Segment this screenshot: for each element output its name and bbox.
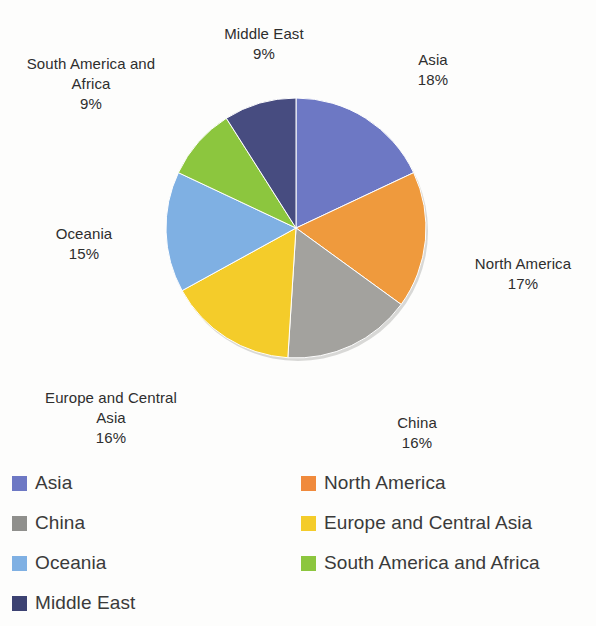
slice-callout-middle-east: Middle East 9% <box>188 4 340 84</box>
legend-swatch-icon-north-america <box>301 476 316 491</box>
legend-swatch-icon-oceania <box>12 556 27 571</box>
slice-callout-south-america-africa-name: South America and Africa <box>27 55 155 92</box>
slice-callout-north-america: North America 17% <box>452 234 594 314</box>
slice-callout-europe-central-asia-name: Europe and Central Asia <box>45 389 177 426</box>
legend-swatch-icon-europe-central-asia <box>301 516 316 531</box>
slice-callout-north-america-name: North America <box>475 255 571 272</box>
slice-callout-south-america-africa: South America and Africa 9% <box>2 34 180 134</box>
slice-callout-oceania-name: Oceania <box>56 225 113 242</box>
legend-item-europe-central-asia[interactable]: Europe and Central Asia <box>301 512 532 534</box>
slice-callout-asia: Asia 18% <box>374 30 492 110</box>
legend-label-asia: Asia <box>35 472 72 494</box>
slice-callout-china-percent: 16% <box>362 433 472 453</box>
legend-swatch-icon-china <box>12 516 27 531</box>
legend-swatch-icon-south-america-africa <box>301 556 316 571</box>
slice-callout-middle-east-name: Middle East <box>224 25 303 42</box>
legend-swatch-icon-middle-east <box>12 596 27 611</box>
pie-slice-group: Asia 18%North America 17%China 16%Europe… <box>166 98 428 361</box>
chart-legend: Asia China Oceania Middle East North Ame… <box>0 462 596 626</box>
slice-callout-asia-percent: 18% <box>374 70 492 90</box>
legend-label-oceania: Oceania <box>35 552 106 574</box>
legend-item-china[interactable]: China <box>12 512 85 534</box>
legend-label-middle-east: Middle East <box>35 592 135 614</box>
legend-label-north-america: North America <box>324 472 446 494</box>
slice-callout-asia-name: Asia <box>418 51 448 68</box>
slice-callout-oceania: Oceania 15% <box>14 204 154 284</box>
slice-callout-china-name: China <box>397 414 437 431</box>
slice-callout-north-america-percent: 17% <box>452 274 594 294</box>
legend-item-asia[interactable]: Asia <box>12 472 72 494</box>
slice-callout-south-america-africa-percent: 9% <box>2 94 180 114</box>
legend-swatch-icon-asia <box>12 476 27 491</box>
slice-callout-middle-east-percent: 9% <box>188 44 340 64</box>
legend-item-oceania[interactable]: Oceania <box>12 552 106 574</box>
pie-chart-figure: Asia 18%North America 17%China 16%Europe… <box>0 0 596 626</box>
slice-callout-europe-central-asia: Europe and Central Asia 16% <box>18 368 204 468</box>
legend-item-south-america-africa[interactable]: South America and Africa <box>301 552 540 574</box>
legend-label-south-america-africa: South America and Africa <box>324 552 540 574</box>
slice-callout-europe-central-asia-percent: 16% <box>18 428 204 448</box>
legend-label-europe-central-asia: Europe and Central Asia <box>324 512 532 534</box>
slice-callout-oceania-percent: 15% <box>14 244 154 264</box>
legend-item-middle-east[interactable]: Middle East <box>12 592 135 614</box>
legend-item-north-america[interactable]: North America <box>301 472 446 494</box>
slice-callout-china: China 16% <box>362 393 472 473</box>
legend-label-china: China <box>35 512 85 534</box>
